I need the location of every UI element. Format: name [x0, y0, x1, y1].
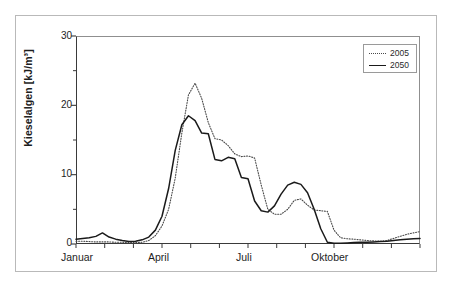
- figure-container: Kieselalgen Kieselalgen [kJ/m³] 30 20 10…: [0, 0, 454, 291]
- legend-line-solid-icon: [369, 62, 386, 69]
- legend-line-dotted-icon: [369, 50, 386, 57]
- legend-label-2050: 2050: [390, 61, 409, 70]
- chart-legend: 2005 2050: [363, 44, 417, 73]
- series-line-2050: [76, 116, 420, 244]
- data-series-group: [76, 83, 420, 243]
- legend-label-2005: 2005: [390, 49, 409, 58]
- legend-entry-2005: 2005: [369, 48, 409, 59]
- legend-entry-2050: 2050: [369, 60, 409, 71]
- series-line-2005: [76, 83, 420, 242]
